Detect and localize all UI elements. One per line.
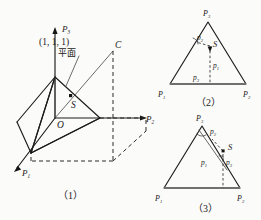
simplex-edge-left <box>31 77 55 153</box>
vertex-label-p2-fig2: P2 <box>242 90 251 100</box>
segment-label-p1-fig2: p1 <box>212 61 219 71</box>
axis-label-p3: P3 <box>61 24 71 35</box>
plane-label: 平面 <box>58 48 76 58</box>
segment-label-p2-fig3: p2 <box>209 127 217 137</box>
coordinate-point-label: (1, 1, 1) <box>39 37 69 48</box>
point-label-s-fig2: S <box>213 39 218 49</box>
axis-p1-arrowhead <box>14 166 21 172</box>
vertex-label-p1-fig3: P1 <box>155 194 162 204</box>
face-edge-upper-left <box>17 77 55 122</box>
figure-3-caption: （3） <box>193 203 218 214</box>
segment-label-p3-fig2: p3 <box>192 73 200 83</box>
vertex-label-p1-fig2: P1 <box>157 90 165 100</box>
simplex-triangle <box>31 77 100 153</box>
triangle-outline-2 <box>170 22 246 84</box>
origin-label-o: O <box>57 120 64 130</box>
point-label-s: S <box>71 100 76 110</box>
face-edge-lower-left <box>17 122 31 153</box>
point-s-marker-3 <box>222 149 225 152</box>
segment-label-p1-fig3: p1 <box>200 158 207 168</box>
vertex-label-p3-fig2: P3 <box>202 9 211 19</box>
vertex-label-p3-fig3: P3 <box>195 114 204 124</box>
point-label-s-fig3: S <box>228 142 233 152</box>
corner-label-c: C <box>115 40 122 50</box>
diagram-canvas: P3 P2 P1 (1, 1, 1) 平面 C O S （1） P3 P1 P2… <box>0 0 261 220</box>
figure-1-caption: （1） <box>58 190 83 201</box>
axis-p3-arrowhead <box>52 27 57 34</box>
axis-label-p2: P2 <box>145 114 155 125</box>
figure-1-3d-simplex: P3 P2 P1 (1, 1, 1) 平面 C O S （1） <box>0 0 160 220</box>
segment-label-p2-fig2: p2 <box>196 33 204 43</box>
vertex-label-p2-fig3: P2 <box>236 194 245 204</box>
segment-label-p3-fig3: p3 <box>225 158 233 168</box>
plane-label-leader <box>66 56 79 86</box>
axis-p1 <box>14 118 55 172</box>
figure-2-triangle-inside: P3 P1 P2 p2 p1 p3 S （2） <box>155 2 261 110</box>
s-arrow-marker-2 <box>208 47 213 52</box>
angle-tick-apex-3 <box>197 134 206 136</box>
figure-3-triangle-outside: P3 P1 P2 p2 p1 p3 S （3） <box>155 108 261 220</box>
point-s-marker <box>69 94 72 97</box>
axis-label-p1: P1 <box>21 168 31 179</box>
figure-2-caption: （2） <box>196 97 221 108</box>
triangle-outline-3 <box>164 126 240 188</box>
